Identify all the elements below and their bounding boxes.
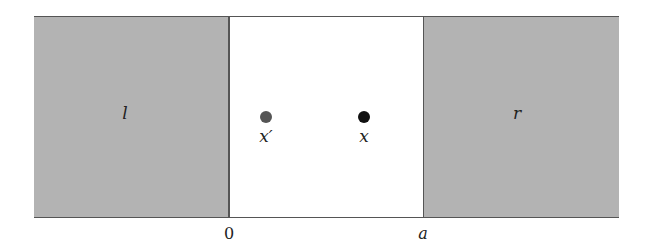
region-label-l: l [122,105,127,122]
point-x-prime-dot [260,111,272,123]
point-x-dot [358,111,370,123]
bottom-boundary-line [34,217,619,219]
region-middle [229,16,423,217]
boundary-line-a [423,16,425,217]
boundary-line-0 [228,16,230,217]
tick-label-0: 0 [224,226,234,242]
point-label-x-prime: x′ [259,128,272,145]
region-label-r: r [513,105,521,122]
point-label-x: x [359,128,369,145]
tick-label-a: a [418,226,428,242]
region-left [34,16,229,217]
top-boundary-line [34,16,619,18]
